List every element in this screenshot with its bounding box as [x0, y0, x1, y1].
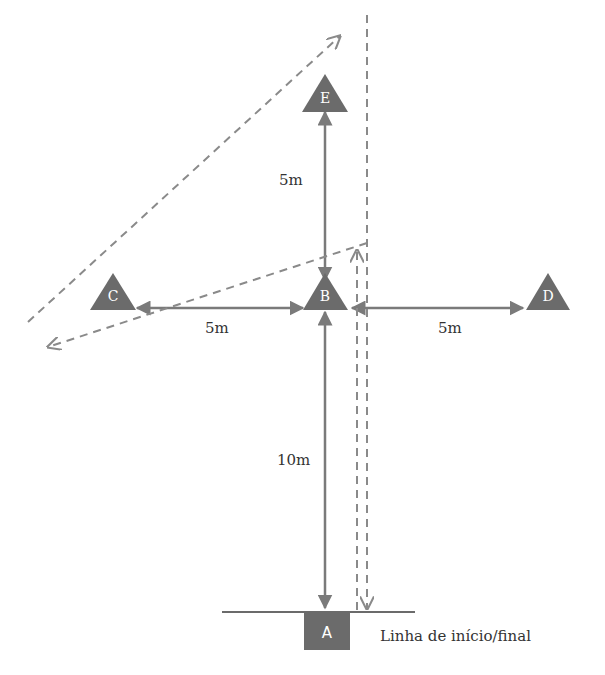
cone-c: C: [90, 273, 136, 310]
cone-b-label: B: [320, 288, 330, 304]
cone-b: B: [303, 273, 348, 310]
cone-e: E: [302, 74, 348, 112]
start-marker-label: A: [322, 624, 333, 642]
distance-label-b-e: 5m: [279, 171, 303, 189]
distance-label-b-c: 5m: [205, 319, 229, 337]
cone-d-label: D: [542, 288, 553, 304]
cone-e-label: E: [320, 90, 330, 106]
cone-c-label: C: [108, 288, 119, 304]
start-line-caption: Linha de início/final: [380, 627, 531, 645]
distance-label-a-b: 10m: [277, 451, 310, 469]
distance-label-b-d: 5m: [438, 319, 462, 337]
start-marker-a: A: [304, 612, 350, 650]
agility-drill-diagram: A Linha de início/final E C B D 5m 5m 5m…: [0, 0, 605, 675]
cone-d: D: [526, 273, 570, 310]
